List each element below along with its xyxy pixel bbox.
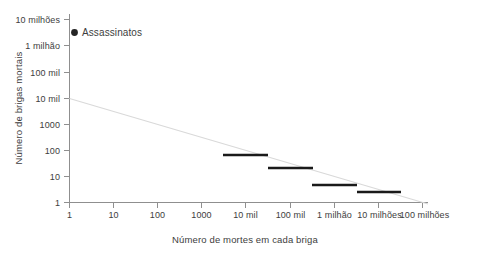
x-tick-label: 10	[108, 210, 118, 220]
x-tick-label: 10 milhões	[357, 210, 402, 220]
y-tick-marks	[64, 20, 70, 203]
x-tick-label: 100	[150, 210, 165, 220]
assassinatos-point-marker	[71, 29, 78, 36]
assassinatos-label: Assassinatos	[82, 27, 142, 38]
axis-lines	[70, 14, 429, 203]
data-bar-segments	[223, 155, 401, 192]
x-tick-marks	[70, 203, 423, 209]
x-axis-title: Número de mortes em cada briga	[172, 234, 319, 245]
x-tick-labels: 1 10 100 1000 10 mil 100 mil 1 milhão 10…	[67, 210, 450, 220]
y-tick-label: 100 mil	[30, 68, 60, 78]
x-tick-label: 1 milhão	[317, 210, 352, 220]
y-tick-label: 1	[55, 198, 60, 208]
trend-line	[70, 99, 429, 205]
log-log-scatter-chart: 10 milhões 1 milhão 100 mil 10 mil 1000 …	[0, 0, 481, 261]
x-tick-label: 10 mil	[233, 210, 258, 220]
x-tick-label: 100 mil	[276, 210, 306, 220]
x-tick-label: 1000	[191, 210, 211, 220]
x-tick-label: 100 milhões	[400, 210, 450, 220]
chart-container: 10 milhões 1 milhão 100 mil 10 mil 1000 …	[0, 0, 481, 261]
y-tick-label: 10	[50, 172, 60, 182]
y-tick-label: 1000	[40, 120, 60, 130]
x-tick-label: 1	[67, 210, 72, 220]
y-tick-label: 100	[45, 146, 60, 156]
y-tick-label: 1 milhão	[25, 41, 60, 51]
y-tick-label: 10 milhões	[15, 15, 60, 25]
y-axis-title: Número de brigas mortais	[13, 51, 24, 164]
y-tick-label: 10 mil	[35, 94, 60, 104]
